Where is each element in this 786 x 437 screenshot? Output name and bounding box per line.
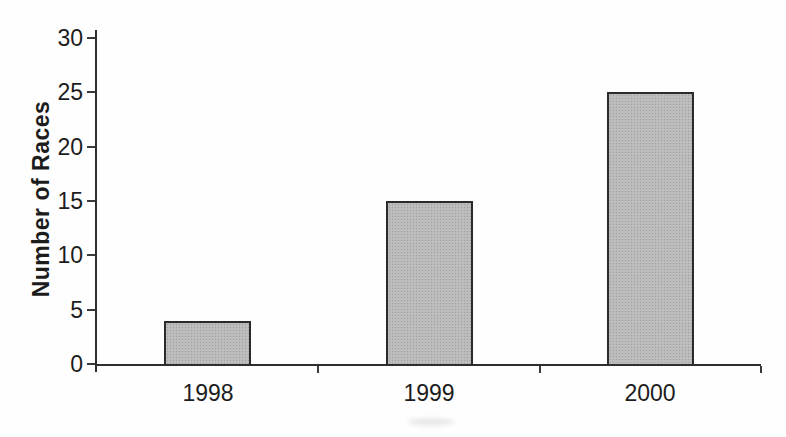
y-tick-label: 15 <box>23 188 83 214</box>
scan-smudge <box>408 418 454 426</box>
races-bar-chart: Number of Races 051015202530199819992000 <box>0 0 786 437</box>
bar-2000 <box>607 92 694 364</box>
x-tick <box>760 366 762 373</box>
y-tick-label: 5 <box>23 297 83 323</box>
y-tick-label: 0 <box>23 351 83 377</box>
bar-1998 <box>164 321 251 364</box>
x-axis-label: 1998 <box>143 380 273 406</box>
x-axis-label: 2000 <box>585 380 715 406</box>
x-tick <box>539 366 541 373</box>
y-tick <box>87 254 95 256</box>
y-tick-label: 10 <box>23 242 83 268</box>
y-tick-label: 25 <box>23 79 83 105</box>
x-tick <box>317 366 319 373</box>
y-tick <box>87 146 95 148</box>
y-tick <box>87 37 95 39</box>
x-axis-label: 1999 <box>364 380 494 406</box>
y-tick <box>87 309 95 311</box>
y-tick <box>87 91 95 93</box>
y-tick-label: 20 <box>23 134 83 160</box>
y-tick <box>87 363 95 365</box>
y-tick <box>87 200 95 202</box>
bar-1999 <box>386 201 473 364</box>
y-axis-line <box>95 30 97 372</box>
x-axis-line <box>95 364 761 366</box>
y-tick-label: 30 <box>23 25 83 51</box>
